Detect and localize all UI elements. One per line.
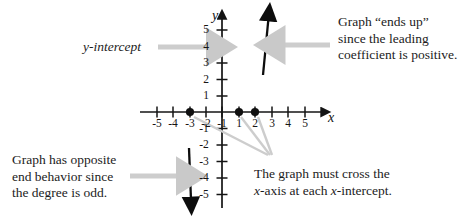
x-tick-label-3: 3 (265, 117, 279, 129)
y-tick-label-3: 3 (199, 56, 213, 68)
x-tick-label-2: 2 (248, 117, 262, 129)
y-tick-label-1: 1 (199, 89, 213, 101)
ends-up-line-2: since the leading (338, 31, 457, 48)
y-tick-label--2: -2 (194, 138, 214, 150)
x-intercept-point-neg2 (186, 108, 194, 116)
crosses-axis-line-1: The graph must cross the (254, 166, 392, 183)
opposite-behavior-line-1: Graph has opposite (12, 152, 116, 169)
y-tick-label-5: 5 (199, 23, 213, 35)
x-axis-label: x (328, 110, 334, 126)
opposite-behavior-line-3: the degree is odd. (12, 185, 116, 202)
ends-up-annotation: Graph “ends up” since the leading coeffi… (338, 14, 457, 64)
x-tick-label-5: 5 (298, 117, 312, 129)
y-tick-label--1: -1 (194, 122, 214, 134)
y-intercept-point (218, 42, 226, 50)
crosses-axis-annotation: The graph must cross the x-axis at each … (254, 166, 392, 199)
y-tick-label-4: 4 (199, 40, 213, 52)
end-behavior-arrow-down (189, 148, 191, 200)
x-intercept-point-1 (235, 108, 243, 116)
y-intercept-annotation-text: y-intercept (83, 39, 141, 54)
x-tick-label-4: 4 (281, 117, 295, 129)
end-behavior-arrow-up (263, 18, 269, 75)
crosses-axis-line-2: x-axis at each x-intercept. (254, 183, 392, 200)
x-tick-label-1: 1 (232, 117, 246, 129)
y-tick-label-2: 2 (199, 73, 213, 85)
y-tick-label--3: -3 (194, 155, 214, 167)
ends-up-line-3: coefficient is positive. (338, 47, 457, 64)
opposite-behavior-annotation: Graph has opposite end behavior since th… (12, 152, 116, 202)
y-axis-label: y (212, 8, 218, 24)
x-tick-label--1: -1 (212, 117, 232, 129)
y-intercept-annotation: y-intercept (83, 39, 141, 56)
y-tick-label--4: -4 (194, 171, 214, 183)
opposite-behavior-line-2: end behavior since (12, 169, 116, 186)
x-intercept-point-2 (251, 108, 259, 116)
crosses-axis-mid-text: -axis at each (260, 183, 331, 198)
y-tick-label--5: -5 (194, 188, 214, 200)
polynomial-graph-figure: y x -5 -4 -3 -2 -1 1 2 3 4 5 5 4 3 2 1 -… (0, 0, 473, 223)
ends-up-line-1: Graph “ends up” (338, 14, 457, 31)
crosses-axis-end-text: -intercept. (337, 183, 392, 198)
